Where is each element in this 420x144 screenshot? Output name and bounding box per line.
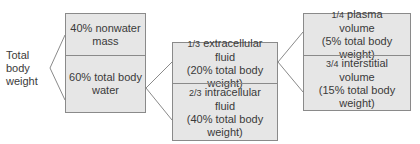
root-line: body	[6, 62, 38, 75]
cell-line: volume	[306, 22, 408, 35]
fraction: 1/3	[188, 39, 201, 49]
body-composition-box: 40% nonwatermass 60% total bodywater	[65, 13, 146, 113]
fraction: 1/4	[331, 10, 344, 20]
water-compartments-box: 1/3 extracellular fluid (20% total body …	[172, 42, 278, 141]
extracellular-fluid-cell: 1/3 extracellular fluid (20% total body …	[173, 43, 277, 83]
cell-line: extracellular	[203, 37, 262, 49]
cell-line: interstitial	[342, 57, 388, 69]
cell-line: intracellular	[205, 86, 261, 98]
cell-line: plasma	[347, 8, 382, 20]
cell-line: volume	[306, 71, 408, 84]
extracellular-compartments-box: 1/4 plasma volume (5% total body weight)…	[303, 13, 411, 111]
total-body-water-cell: 60% total bodywater	[66, 56, 145, 112]
cell-line: fluid	[175, 100, 275, 113]
fraction: 2/3	[189, 88, 202, 98]
plasma-volume-cell: 1/4 plasma volume (5% total body weight)	[304, 14, 410, 55]
cell-line: water	[69, 84, 142, 97]
cell-line: fluid	[175, 51, 275, 64]
root-line: weight	[6, 75, 38, 88]
fraction: 3/4	[326, 59, 339, 69]
cell-line: 40% nonwater	[70, 22, 140, 35]
cell-line: 60% total body	[69, 71, 142, 84]
root-line: Total	[6, 49, 38, 62]
interstitial-volume-cell: 3/4 interstitial volume (15% total body …	[304, 56, 410, 110]
nonwater-mass-cell: 40% nonwatermass	[66, 14, 145, 55]
cell-line: (15% total body weight)	[306, 84, 408, 110]
intracellular-fluid-cell: 2/3 intracellular fluid (40% total body …	[173, 84, 277, 140]
cell-line: (40% total body weight)	[175, 113, 275, 139]
total-body-weight-label: Total body weight	[6, 49, 38, 88]
cell-line: mass	[70, 35, 140, 48]
